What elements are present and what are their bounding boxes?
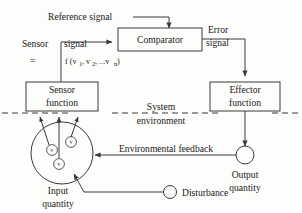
- formula-mid: , ...v: [95, 57, 110, 66]
- edge-input-to-sensor: [40, 117, 78, 158]
- edge-disturbance-to-input: [74, 174, 163, 192]
- system-environment-label-line1: System: [147, 101, 176, 112]
- output-quantity-label-line2: quantity: [229, 182, 261, 193]
- node-disturbance: Disturbance: [164, 186, 229, 199]
- input-quantity-label-line2: quantity: [42, 198, 74, 209]
- reference-signal-arrow: [133, 17, 169, 28]
- variable-v2-label: v: [70, 139, 73, 145]
- input-variable-vn: v: [54, 159, 65, 170]
- node-effector-function: Effector function: [210, 82, 280, 111]
- node-input-quantity: v v v Input quantity: [31, 122, 93, 209]
- reference-signal-label: Reference signal: [48, 11, 113, 22]
- error-signal-label-line2: signal: [206, 37, 229, 48]
- sensor-function-label-line1: Sensor: [49, 84, 76, 95]
- formula-f: f (v: [65, 57, 77, 66]
- comparator-label: Comparator: [137, 34, 184, 45]
- system-environment-label-line2: environment: [137, 115, 186, 126]
- node-output-quantity: Output quantity: [229, 146, 261, 193]
- output-quantity-circle: [236, 146, 254, 164]
- sensor-function-label-line2: function: [46, 97, 78, 108]
- input-variable-v1: v: [47, 145, 58, 156]
- node-comparator: Comparator: [118, 28, 202, 51]
- disturbance-circle: [164, 186, 177, 199]
- equals-sign-label: =: [30, 55, 35, 66]
- input-sensor-arrow-1: [40, 117, 49, 145]
- control-system-diagram: Reference signal Comparator Sensor signa…: [0, 0, 302, 213]
- disturbance-arrow: [74, 174, 163, 192]
- diagram-canvas: Reference signal Comparator Sensor signa…: [0, 0, 302, 213]
- variable-vn-label: v: [58, 161, 61, 167]
- disturbance-label: Disturbance: [182, 187, 228, 198]
- environmental-feedback-label: Environmental feedback: [119, 143, 213, 154]
- input-quantity-circle: [31, 122, 93, 184]
- formula-comma-1: , v: [82, 57, 91, 66]
- node-sensor-function: Sensor function: [26, 82, 98, 111]
- sensor-formula: f (v 1 , v 2 , ...v n ): [65, 57, 120, 67]
- sensor-word-label: Sensor: [22, 38, 49, 49]
- edge-reference-signal: [133, 17, 169, 28]
- input-sensor-arrow-3: [71, 117, 78, 137]
- effector-function-label-line2: function: [229, 97, 261, 108]
- formula-close: ): [117, 57, 120, 66]
- input-variable-v2: v: [66, 137, 77, 148]
- error-signal-label-line1: Error: [208, 24, 229, 35]
- effector-function-label-line1: Effector: [229, 84, 261, 95]
- input-quantity-label-line1: Input: [48, 185, 69, 196]
- variable-v1-label: v: [51, 147, 54, 153]
- signal-word-label: signal: [64, 38, 87, 49]
- output-quantity-label-line1: Output: [232, 169, 259, 180]
